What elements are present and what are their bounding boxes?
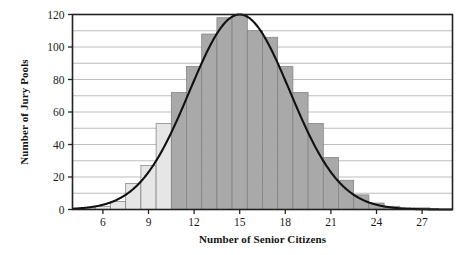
- histogram-bar: [171, 93, 186, 210]
- histogram-bar: [278, 67, 293, 210]
- y-tick-label: 20: [53, 171, 65, 183]
- histogram-bar: [247, 31, 262, 210]
- histogram-bar: [217, 18, 232, 210]
- histogram-bar: [187, 67, 202, 210]
- x-tick-label: 24: [371, 216, 383, 228]
- histogram-bar: [232, 15, 247, 210]
- y-tick-label: 0: [59, 204, 65, 216]
- x-tick-label: 6: [100, 216, 106, 228]
- y-tick-label: 120: [47, 9, 65, 21]
- y-axis-label: Number of Jury Pools: [18, 59, 30, 165]
- y-tick-label: 100: [47, 41, 65, 53]
- x-tick-label: 15: [234, 216, 246, 228]
- x-tick-label: 21: [325, 216, 337, 228]
- histogram-bar: [293, 93, 308, 210]
- x-tick-label: 18: [280, 216, 292, 228]
- y-tick-label: 80: [53, 74, 65, 86]
- histogram-figure: 020406080100120 69121518212427 Number of…: [0, 0, 476, 255]
- histogram-bar: [126, 184, 141, 210]
- histogram-bar: [263, 37, 278, 209]
- x-tick-label: 12: [188, 216, 200, 228]
- y-tick-label: 40: [53, 139, 65, 151]
- y-tick-label: 60: [53, 106, 65, 118]
- x-axis-label: Number of Senior Citizens: [199, 233, 327, 245]
- x-tick-label: 27: [416, 216, 428, 228]
- x-tick-label: 9: [146, 216, 152, 228]
